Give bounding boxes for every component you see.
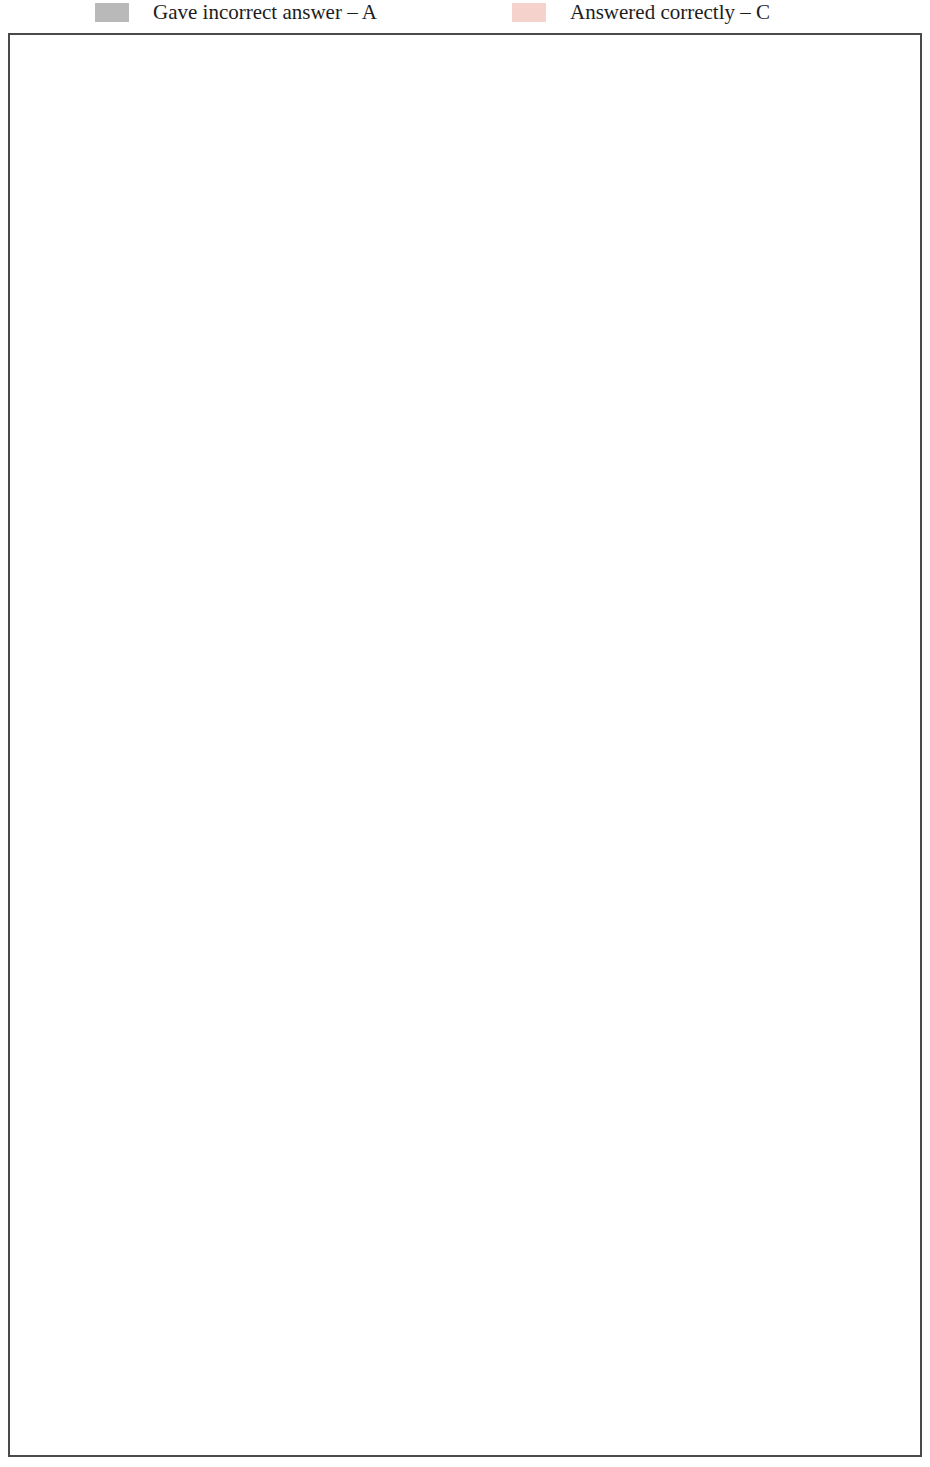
legend-item-correct: Answered correctly – C <box>512 0 770 24</box>
legend-label-incorrect: Gave incorrect answer – A <box>153 0 377 25</box>
chart-frame <box>8 33 922 1457</box>
legend-item-incorrect: Gave incorrect answer – A <box>95 0 377 24</box>
legend-swatch-pink-icon <box>512 3 546 22</box>
legend-label-correct: Answered correctly – C <box>570 0 770 25</box>
legend-swatch-gray-icon <box>95 3 129 22</box>
chart-legend: Gave incorrect answer – A Answered corre… <box>0 0 930 30</box>
